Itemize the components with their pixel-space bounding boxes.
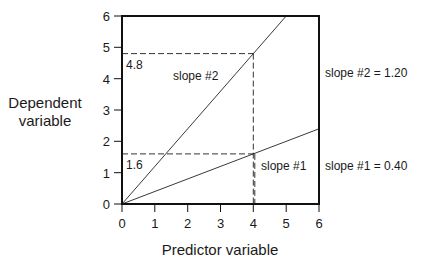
y-tick-5: 5 [103,40,110,55]
x-tick-5: 5 [283,216,290,231]
label-slope-2-inside: slope #2 [173,69,219,83]
y-tick-6: 6 [103,9,110,24]
x-tick-0: 0 [118,216,125,231]
x-tick-3: 3 [217,216,224,231]
x-tick-1: 1 [151,216,158,231]
x-axis-title: Predictor variable [162,241,279,258]
y-tick-labels: 0 1 2 3 4 5 6 [103,9,110,212]
regression-slope-chart: 0 1 2 3 4 5 6 0 1 2 3 4 5 6 4.8 1.6 slop… [0,0,422,267]
label-1-6: 1.6 [126,158,143,172]
line-slope-2 [122,16,286,204]
x-tick-2: 2 [184,216,191,231]
x-tick-labels: 0 1 2 3 4 5 6 [118,216,322,231]
y-tick-4: 4 [103,72,110,87]
label-4-8: 4.8 [126,58,143,72]
x-axis-ticks [122,204,319,212]
y-tick-3: 3 [103,103,110,118]
label-slope-1-inside: slope #1 [261,159,307,173]
label-slope-1-equation: slope #1 = 0.40 [325,159,408,173]
x-tick-6: 6 [315,216,322,231]
y-tick-0: 0 [103,197,110,212]
y-axis-ticks [114,16,122,204]
y-axis-title-line-2: variable [19,112,72,129]
plot-frame [122,16,319,204]
label-slope-2-equation: slope #2 = 1.20 [325,66,408,80]
y-axis-title-line-1: Dependent [8,94,82,111]
y-tick-2: 2 [103,134,110,149]
x-tick-4: 4 [250,216,257,231]
y-tick-1: 1 [103,166,110,181]
